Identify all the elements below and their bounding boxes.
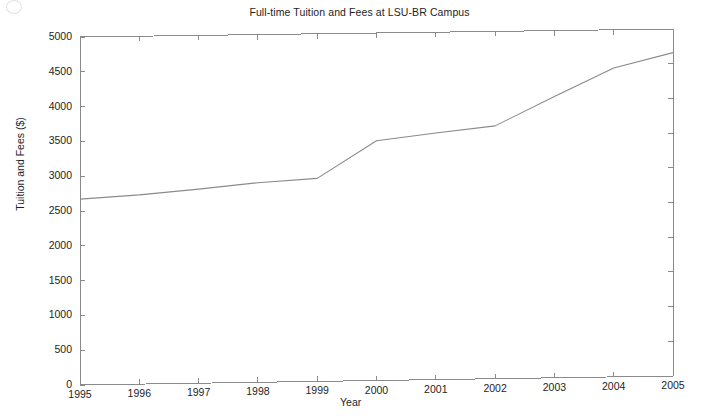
y-tick-label: 4500: [20, 65, 72, 77]
y-tick-label: 500: [20, 343, 72, 355]
x-tick-label: 1996: [114, 387, 164, 399]
data-series-line: [80, 53, 673, 200]
x-tick-label: 1997: [174, 386, 224, 398]
chart-figure: Full-time Tuition and Fees at LSU-BR Cam…: [0, 0, 719, 416]
tuition-line: [80, 53, 673, 200]
y-tick-label: 3500: [20, 134, 72, 146]
y-tick-label: 2000: [20, 239, 72, 251]
y-tick-label: 1000: [20, 308, 72, 320]
x-tick-label: 2002: [470, 382, 520, 394]
y-tick-label: 5000: [20, 30, 72, 42]
x-tick-label: 1999: [292, 384, 342, 396]
x-tick-label: 2003: [529, 381, 579, 393]
x-tick-label: 1998: [233, 385, 283, 397]
x-tick-label: 2005: [648, 379, 698, 391]
plot-area: [0, 0, 719, 416]
x-tick-label: 2000: [352, 384, 402, 396]
y-tick-label: 3000: [20, 169, 72, 181]
x-tick-label: 2004: [589, 380, 639, 392]
x-tick-label: 1995: [55, 388, 105, 400]
y-tick-label: 1500: [20, 274, 72, 286]
y-tick-label: 2500: [20, 204, 72, 216]
y-tick-label: 4000: [20, 100, 72, 112]
x-tick-label: 2001: [411, 383, 461, 395]
